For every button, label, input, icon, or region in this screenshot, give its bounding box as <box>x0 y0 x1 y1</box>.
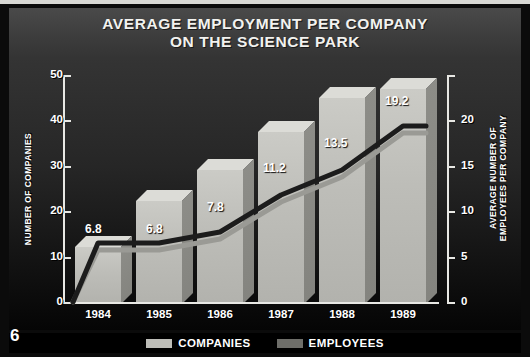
chart-title-line-2: ON THE SCIENCE PARK <box>170 33 360 51</box>
data-label-1985: 6.8 <box>146 222 163 236</box>
legend-item-employees[interactable]: EMPLOYEES <box>277 337 384 349</box>
chart-legend: COMPANIES EMPLOYEES <box>9 333 521 353</box>
legend-label-companies: COMPANIES <box>178 337 250 349</box>
plot-area: NUMBER OF COMPANIES AVERAGE NUMBER OF EM… <box>9 58 521 330</box>
data-label-1986: 7.8 <box>207 200 224 214</box>
chart-screenshot: AVERAGE EMPLOYMENT PER COMPANY ON THE SC… <box>0 0 530 357</box>
legend-item-companies[interactable]: COMPANIES <box>146 337 250 349</box>
chart-title-line-1: AVERAGE EMPLOYMENT PER COMPANY <box>102 15 428 33</box>
data-label-1989: 19.2 <box>385 94 408 108</box>
employees-line-series <box>9 58 521 330</box>
employees-line-light <box>73 133 426 302</box>
chart-plate: AVERAGE EMPLOYMENT PER COMPANY ON THE SC… <box>0 4 530 357</box>
data-label-1988: 13.5 <box>324 136 347 150</box>
data-label-1987: 11.2 <box>263 161 286 175</box>
chart-title-band: AVERAGE EMPLOYMENT PER COMPANY ON THE SC… <box>9 8 521 58</box>
legend-swatch-companies <box>146 339 172 348</box>
data-label-1984: 6.8 <box>85 222 102 236</box>
legend-swatch-employees <box>277 339 303 348</box>
legend-label-employees: EMPLOYEES <box>309 337 384 349</box>
plot-inner: NUMBER OF COMPANIES AVERAGE NUMBER OF EM… <box>9 58 521 330</box>
